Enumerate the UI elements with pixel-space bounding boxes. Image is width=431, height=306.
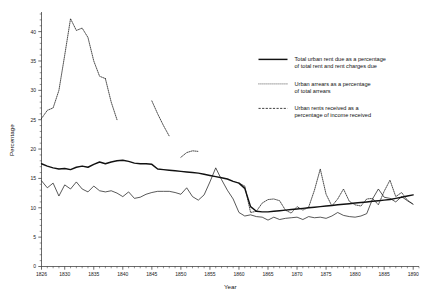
axis-titles: YearPercentage <box>8 124 237 290</box>
chart-figure: 0510152025303540182618301835184018451850… <box>0 0 431 306</box>
y-tick-label: 35 <box>30 58 36 64</box>
y-tick-label: 20 <box>30 146 36 152</box>
legend-label-1-line1: Total urban rent due as a percentage <box>295 56 386 62</box>
legend: Total urban rent due as a percentageof t… <box>259 56 386 118</box>
legend-label-3-line1: Urban rents received as a <box>295 105 360 111</box>
y-tick-label: 10 <box>30 205 36 211</box>
x-tick-label: 1826 <box>36 271 47 277</box>
legend-label-1-line2: of total rent and rent charges due <box>295 63 377 69</box>
x-tick-label: 1885 <box>379 271 390 277</box>
x-tick-label: 1845 <box>146 271 157 277</box>
series-path-1 <box>42 160 414 212</box>
series-path-2 <box>42 19 106 119</box>
legend-label-3-line2: percentage of income received <box>295 112 372 118</box>
y-tick-label: 0 <box>33 263 36 269</box>
legend-label-2-line2: of total arrears <box>295 88 331 94</box>
data-series <box>42 19 414 220</box>
y-tick-label: 15 <box>30 175 36 181</box>
series-path-2 <box>152 101 169 136</box>
y-axis-title: Percentage <box>8 124 15 156</box>
y-tick-label: 30 <box>30 87 36 93</box>
x-tick-label: 1875 <box>321 271 332 277</box>
x-tick-label: 1860 <box>233 271 244 277</box>
x-tick-label: 1855 <box>204 271 215 277</box>
series-path-3 <box>42 168 414 220</box>
legend-label-2-line1: Urban arrears as a percentage <box>295 81 371 87</box>
x-axis-title: Year <box>224 283 237 290</box>
series-path-2 <box>181 151 198 157</box>
x-tick-label: 1850 <box>175 271 186 277</box>
series-path-2 <box>105 79 117 120</box>
y-tick-label: 40 <box>30 29 36 35</box>
x-tick-label: 1870 <box>291 271 302 277</box>
x-tick-label: 1865 <box>262 271 273 277</box>
line-chart: 0510152025303540182618301835184018451850… <box>0 0 431 306</box>
x-tick-label: 1835 <box>88 271 99 277</box>
y-tick-label: 25 <box>30 117 36 123</box>
axes <box>38 12 419 270</box>
x-tick-label: 1840 <box>117 271 128 277</box>
x-tick-label: 1880 <box>350 271 361 277</box>
x-tick-label: 1830 <box>59 271 70 277</box>
y-tick-label: 5 <box>33 234 36 240</box>
x-tick-label: 1890 <box>408 271 419 277</box>
